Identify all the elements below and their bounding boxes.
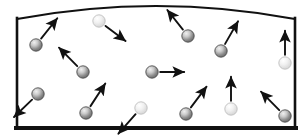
gas-particle: [182, 30, 194, 42]
gas-particle: [77, 66, 89, 78]
figure-canvas: [0, 0, 308, 136]
gas-particle: [135, 102, 147, 114]
gas-particle: [180, 108, 192, 120]
gas-particle: [32, 88, 44, 100]
gas-particle: [93, 15, 105, 27]
gas-particle: [146, 66, 158, 78]
gas-particle: [225, 103, 237, 115]
gas-particle: [80, 107, 92, 119]
gas-particle-diagram: [0, 0, 308, 136]
gas-particle: [279, 57, 291, 69]
gas-particle: [279, 110, 291, 122]
gas-particle: [30, 39, 42, 51]
gas-particle: [215, 45, 227, 57]
